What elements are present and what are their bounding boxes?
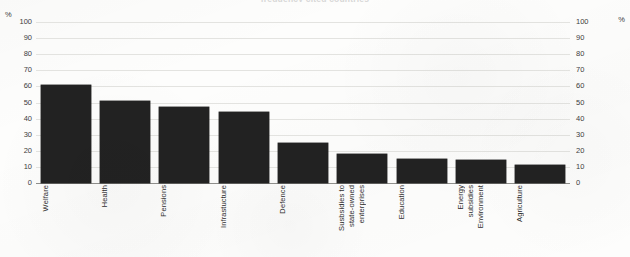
x-axis-label: Education <box>397 185 447 257</box>
x-axis-label: EnergysubsidiesEnvironment <box>456 185 506 257</box>
x-axis-label: Health <box>100 185 150 257</box>
y-axis-unit-right: % <box>618 15 625 24</box>
bar-chart: frequency cited countries % % 0102030405… <box>0 0 630 257</box>
y-tick-left-10: 10 <box>2 163 32 171</box>
y-tick-left-60: 60 <box>2 82 32 90</box>
bar <box>337 154 387 183</box>
x-axis-label: Pensions <box>159 185 209 257</box>
y-tick-right-0: 0 <box>576 179 606 187</box>
x-axis-label-line: Education <box>397 185 406 219</box>
y-tick-left-100: 100 <box>2 18 32 26</box>
x-axis-label-line: Welfare <box>41 185 50 211</box>
y-tick-right-70: 70 <box>576 66 606 74</box>
y-tick-right-30: 30 <box>576 131 606 139</box>
chart-title: frequency cited countries <box>0 0 630 2</box>
x-axis-label: Welfare <box>41 185 91 257</box>
y-tick-right-80: 80 <box>576 50 606 58</box>
x-axis-label-line: Pensions <box>159 185 168 217</box>
x-axis-label: Susbsidies tostate-ownedenterprises <box>337 185 387 257</box>
x-axis-label-line: Agriculture <box>515 185 524 222</box>
y-tick-left-70: 70 <box>2 66 32 74</box>
gridline-0 <box>36 183 570 184</box>
y-tick-right-50: 50 <box>576 99 606 107</box>
x-axis-label-line: Infrastucture <box>219 185 228 228</box>
y-tick-left-20: 20 <box>2 147 32 155</box>
plot-area <box>36 22 570 183</box>
y-tick-left-30: 30 <box>2 131 32 139</box>
x-axis-label-line: enterprises <box>357 185 366 223</box>
y-tick-left-90: 90 <box>2 34 32 42</box>
y-tick-left-50: 50 <box>2 99 32 107</box>
x-axis-label: Infrastucture <box>219 185 269 257</box>
bar <box>278 143 328 183</box>
y-axis-right: 0102030405060708090100 <box>576 22 608 183</box>
bar <box>397 159 447 183</box>
bars-layer <box>36 22 570 183</box>
y-axis-left: 0102030405060708090100 <box>0 22 32 183</box>
y-tick-left-40: 40 <box>2 115 32 123</box>
y-tick-left-80: 80 <box>2 50 32 58</box>
y-tick-left-0: 0 <box>2 179 32 187</box>
y-tick-right-20: 20 <box>576 147 606 155</box>
y-tick-right-90: 90 <box>576 34 606 42</box>
x-axis-label-line: Energy <box>456 185 465 209</box>
y-tick-right-10: 10 <box>576 163 606 171</box>
x-axis-label-line: Health <box>100 185 109 207</box>
x-axis-label-line: subsidies <box>466 185 475 217</box>
x-axis-label: Agriculture <box>515 185 565 257</box>
y-tick-right-60: 60 <box>576 82 606 90</box>
x-axis-label: Defence <box>278 185 328 257</box>
bar <box>456 160 506 183</box>
bar <box>219 112 269 183</box>
x-axis-label-line: Environment <box>476 185 485 228</box>
bar <box>41 85 91 183</box>
y-tick-right-100: 100 <box>576 18 606 26</box>
bar <box>515 165 565 183</box>
x-axis-label-line: Susbsidies to <box>337 185 346 231</box>
x-axis-label-line: Defence <box>278 185 287 214</box>
y-tick-right-40: 40 <box>576 115 606 123</box>
bar <box>100 101 150 183</box>
x-axis-label-line: state-owned <box>347 185 356 227</box>
bar <box>159 107 209 183</box>
x-axis-labels: WelfareHealthPensionsInfrastuctureDefenc… <box>36 185 570 257</box>
